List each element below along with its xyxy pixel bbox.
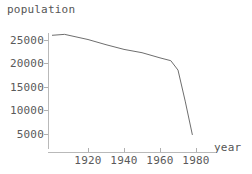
chart-plot-area: [0, 0, 252, 174]
population-year-plot: population year 25000 20000 15000 10000 …: [0, 0, 252, 174]
population-line-series: [52, 34, 192, 135]
